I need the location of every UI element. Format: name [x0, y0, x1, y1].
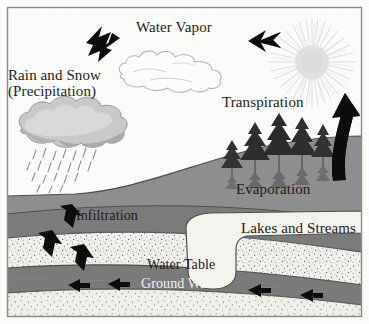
label-water-vapor: Water Vapor [136, 20, 212, 36]
label-rain-and-snow-line2: (Precipitation) [8, 84, 101, 100]
water-cycle-diagram: Rain and Snow (Precipitation) Water Vapo… [0, 0, 369, 324]
label-ground-water: Ground Water [141, 277, 221, 292]
label-rain-and-snow: Rain and Snow (Precipitation) [8, 68, 101, 100]
label-rain-and-snow-line1: Rain and Snow [8, 67, 101, 83]
label-water-table: Water Table [147, 258, 215, 273]
label-transpiration: Transpiration [222, 95, 304, 111]
label-infiltration: Infiltration [76, 209, 138, 224]
label-evaporation: Evaporation [236, 182, 310, 198]
label-lakes-and-streams: Lakes and Streams [241, 221, 356, 237]
